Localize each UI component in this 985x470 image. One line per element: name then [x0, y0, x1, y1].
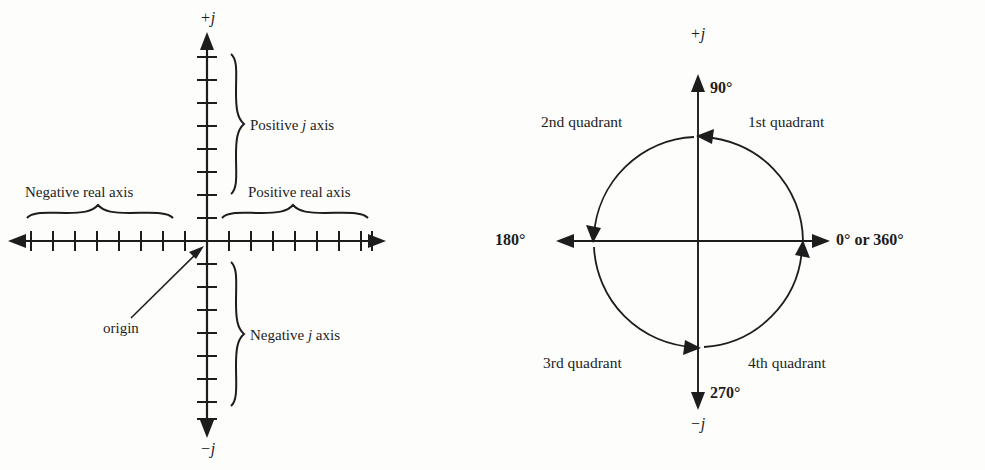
figure-root: +j −j Positive j axis Negative j axis Ne… — [0, 0, 985, 470]
quadrant-4-label: 4th quadrant — [748, 355, 826, 371]
origin-label: origin — [103, 321, 139, 336]
rotation-arc-q4 — [704, 249, 802, 347]
right-negative-j-axis-end-label: −j — [690, 416, 705, 432]
rotation-arc-q1 — [702, 137, 803, 241]
negative-j-axis-label: Negative j axis — [250, 328, 340, 343]
positive-j-axis-label-suffix: axis — [306, 117, 334, 133]
positive-real-axis-label: Positive real axis — [248, 185, 350, 200]
angle-270-label: 270° — [710, 385, 740, 401]
complex-plane-axes-svg — [0, 0, 440, 470]
quadrant-2-label: 2nd quadrant — [541, 114, 622, 130]
negative-j-axis-label-suffix: axis — [312, 327, 340, 343]
left-positive-j-axis-end-label: +j — [200, 10, 215, 26]
positive-j-axis-brace — [231, 54, 244, 194]
angle-0-or-360-label: 0° or 360° — [836, 232, 904, 248]
real-axis-right-arrowhead — [368, 234, 386, 248]
j-axis-down-arrowhead — [200, 420, 214, 438]
quadrant-right-arrowhead — [812, 234, 830, 248]
origin-arrowhead — [189, 246, 204, 259]
negative-real-axis-label: Negative real axis — [25, 185, 133, 200]
complex-plane-axes-diagram: +j −j Positive j axis Negative j axis Ne… — [0, 0, 440, 470]
angle-90-label: 90° — [710, 80, 732, 96]
quadrant-3-label: 3rd quadrant — [543, 355, 622, 371]
quadrant-up-arrowhead — [691, 74, 705, 92]
origin-leader-line — [131, 251, 199, 318]
rotation-arrowhead-right — [795, 240, 810, 258]
left-negative-j-axis-end-label: −j — [200, 441, 215, 457]
j-axis-up-arrowhead — [200, 32, 214, 50]
quadrant-1-label: 1st quadrant — [748, 114, 824, 130]
quadrant-left-arrowhead — [556, 234, 574, 248]
positive-j-axis-label: Positive j axis — [250, 118, 334, 133]
negative-j-axis-label-prefix: Negative — [250, 327, 308, 343]
real-axis-left-arrowhead — [8, 234, 26, 248]
positive-real-axis-brace — [222, 205, 368, 218]
angle-180-label: 180° — [495, 232, 525, 248]
right-positive-j-axis-end-label: +j — [690, 26, 705, 42]
angular-quadrants-diagram: +j −j 90° 0° or 360° 270° 180° 2nd quadr… — [440, 0, 985, 470]
rotation-arc-q2 — [594, 137, 694, 235]
negative-real-axis-brace — [27, 205, 173, 218]
positive-j-axis-label-prefix: Positive — [250, 117, 302, 133]
quadrant-down-arrowhead — [691, 392, 705, 410]
rotation-arc-q3 — [594, 247, 694, 347]
negative-j-axis-brace — [231, 262, 244, 406]
